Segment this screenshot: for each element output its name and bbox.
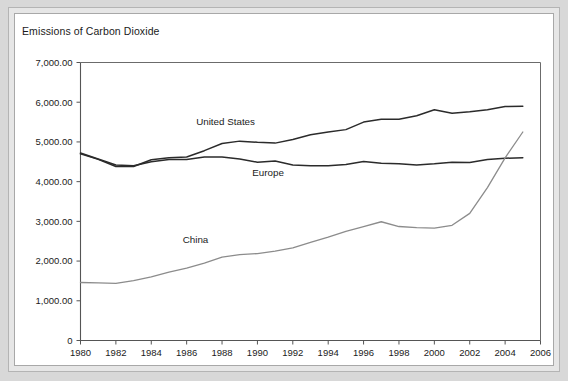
document-frame-outer bbox=[8, 7, 560, 372]
screenshot-page: Emissions of Carbon Dioxide 01,000.002,0… bbox=[0, 0, 568, 381]
chart-title: Emissions of Carbon Dioxide bbox=[22, 25, 160, 37]
document-frame-inner bbox=[14, 13, 554, 366]
